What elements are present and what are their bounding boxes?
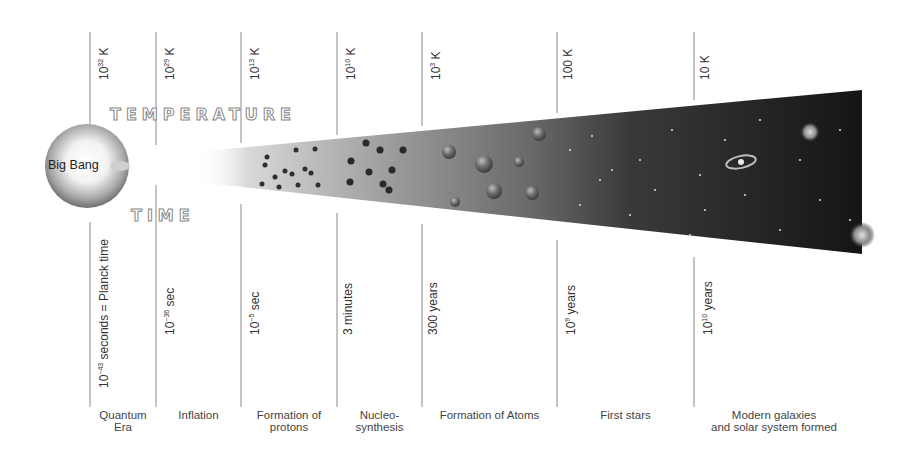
distant-galaxy: [800, 122, 820, 142]
star-dot: [849, 219, 851, 221]
star-dot: [819, 199, 821, 201]
era-label: Quantum Era: [90, 409, 156, 433]
proton-dot: [313, 147, 318, 152]
diagram-canvas: [0, 0, 905, 454]
star-dot: [704, 209, 706, 211]
time-label: 3 minutes: [341, 283, 355, 335]
star-dot: [654, 189, 656, 191]
star-dot: [759, 119, 761, 121]
nucleus-blob: [389, 167, 396, 174]
big-bang-label: Big Bang: [48, 158, 99, 172]
planet-edge: [849, 222, 875, 248]
nucleus-blob: [363, 140, 370, 147]
proton-dot: [277, 185, 282, 190]
star-dot: [591, 135, 593, 137]
time-heading: TIME: [131, 206, 195, 225]
proton-dot: [294, 148, 299, 153]
temperature-label: 100 K: [561, 49, 575, 80]
time-label: 10−43 seconds = Planck time: [94, 239, 111, 388]
nucleus-blob: [380, 181, 387, 188]
atom-sphere: [475, 155, 493, 173]
atom-sphere: [442, 145, 456, 159]
star-dot: [629, 214, 631, 216]
nucleus-blob: [377, 147, 384, 154]
era-label: Modern galaxies and solar system formed: [694, 409, 854, 433]
time-label: 109 years: [561, 285, 578, 335]
star-dot: [839, 129, 841, 131]
era-label: Formation of protons: [241, 409, 337, 433]
proton-dot: [316, 183, 321, 188]
star-dot: [724, 139, 726, 141]
proton-dot: [283, 169, 288, 174]
proton-dot: [290, 172, 295, 177]
era-label: Nucleo- synthesis: [337, 409, 422, 433]
temperature-heading: TEMPERATURE: [110, 105, 296, 124]
temperature-label: 1010 K: [341, 48, 358, 81]
nucleus-blob: [348, 158, 355, 165]
star-dot: [671, 129, 673, 131]
temperature-label: 1032 K: [94, 48, 111, 81]
atom-sphere: [486, 183, 502, 199]
era-label: Formation of Atoms: [422, 409, 557, 421]
atom-sphere: [532, 127, 546, 141]
star-dot: [611, 169, 613, 171]
atom-sphere: [525, 186, 539, 200]
temperature-label: 1029 K: [160, 48, 177, 81]
temperature-label: 1013 K: [245, 48, 262, 81]
time-label: 1010 years: [698, 281, 715, 335]
time-label: 300 years: [426, 282, 440, 335]
time-label: 10−5 sec: [245, 292, 262, 335]
star-dot: [639, 159, 641, 161]
era-label: First stars: [557, 409, 694, 421]
time-label: 10−36 sec: [160, 288, 177, 335]
temperature-label: 103 K: [426, 51, 443, 80]
star-dot: [599, 179, 601, 181]
nucleus-blob: [400, 147, 407, 154]
temperature-label: 10 K: [698, 55, 712, 80]
nucleus-blob: [347, 179, 354, 186]
nucleus-blob: [366, 169, 373, 176]
atom-sphere: [450, 197, 460, 207]
big-bang-timeline-diagram: Big Bang TEMPERATURE TIME 1032 K10−43 se…: [0, 0, 905, 454]
proton-dot: [309, 171, 314, 176]
nucleus-blob: [386, 187, 393, 194]
star-dot: [779, 229, 781, 231]
atom-sphere: [514, 157, 524, 167]
star-dot: [569, 149, 571, 151]
era-label: Inflation: [156, 409, 241, 421]
big-bang-streak: [110, 161, 130, 171]
star-dot: [799, 159, 801, 161]
proton-dot: [303, 167, 308, 172]
proton-dot: [273, 175, 278, 180]
star-dot: [699, 174, 701, 176]
star-dot: [689, 234, 691, 236]
proton-dot: [265, 155, 270, 160]
galaxy-core: [738, 159, 744, 165]
proton-dot: [296, 183, 301, 188]
proton-dot: [260, 182, 265, 187]
proton-dot: [263, 163, 268, 168]
star-dot: [744, 194, 746, 196]
star-dot: [579, 204, 581, 206]
